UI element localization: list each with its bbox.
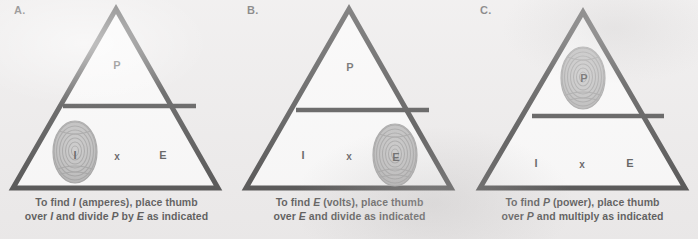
triangle-b-icon: [233, 0, 466, 196]
panel-c-caption: To find P (power), place thumb over P an…: [466, 196, 698, 223]
panel-c-caption-line1: To find P (power), place thumb: [466, 196, 698, 210]
triangle-a-cell-p: P: [113, 59, 120, 71]
panel-c-triangle-group: P I x E: [466, 0, 698, 196]
triangle-a-cell-e: E: [159, 149, 166, 161]
triangle-a-icon: [0, 0, 233, 196]
triangle-b-cell-i: I: [301, 149, 304, 161]
panel-b-caption-line2: over E and divide as indicated: [233, 210, 466, 224]
triangle-c-cell-e: E: [626, 157, 633, 169]
triangle-b-cell-x: x: [346, 151, 352, 162]
panel-a-caption-line2: over I and divide P by E as indicated: [0, 210, 233, 224]
panel-c: C.: [466, 0, 698, 239]
panel-a: A.: [0, 0, 233, 239]
ohms-law-triangle-figure: A.: [0, 0, 698, 239]
panel-a-triangle-group: P I x E: [0, 0, 233, 196]
triangle-b-cell-e: E: [392, 151, 399, 163]
triangle-c-cell-x: x: [579, 159, 585, 170]
panel-a-caption: To find I (amperes), place thumb over I …: [0, 196, 233, 223]
triangle-c-cell-i: I: [534, 157, 537, 169]
panel-b-caption-line1: To find E (volts), place thumb: [233, 196, 466, 210]
triangle-b-cell-p: P: [346, 61, 353, 73]
panel-a-label: A.: [14, 4, 25, 16]
triangle-c-cell-p: P: [580, 72, 587, 84]
panel-c-caption-line2: over P and multiply as indicated: [466, 210, 698, 224]
panel-b-label: B.: [247, 4, 258, 16]
panel-b: B.: [233, 0, 466, 239]
panel-b-caption: To find E (volts), place thumb over E an…: [233, 196, 466, 223]
panel-b-triangle-group: P I x E: [233, 0, 466, 196]
panel-c-label: C.: [480, 4, 491, 16]
panel-a-caption-line1: To find I (amperes), place thumb: [0, 196, 233, 210]
triangle-a-cell-i: I: [73, 149, 76, 161]
triangle-a-cell-x: x: [114, 151, 120, 162]
